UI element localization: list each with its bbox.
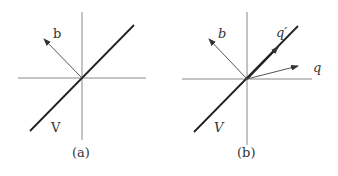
vector-q-arrow	[247, 66, 298, 79]
label-v: V	[214, 120, 225, 135]
label-b: b	[53, 26, 61, 41]
caption-b: (b)	[237, 145, 255, 160]
vector-b-arrow	[44, 39, 82, 78]
label-q-prime: q′	[276, 25, 287, 40]
panel-a: b V (a)	[18, 12, 146, 160]
panel-b: b q′ q V (b)	[182, 12, 321, 160]
vector-b-arrow	[209, 39, 247, 79]
figure: b V (a) b q′ q V (b)	[0, 0, 338, 176]
label-v: V	[50, 120, 61, 135]
label-b: b	[218, 26, 226, 41]
caption-a: (a)	[72, 145, 90, 160]
vector-q-prime-arrow	[247, 47, 278, 79]
label-q: q	[313, 60, 321, 75]
diagram-canvas: b V (a) b q′ q V (b)	[0, 0, 338, 176]
